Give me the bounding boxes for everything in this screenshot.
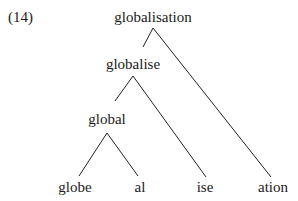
node-globalisation: globalisation — [114, 9, 192, 25]
tree-svg: (14) globalisation globalise global glob… — [0, 0, 298, 201]
edge-globalise-ise — [133, 76, 206, 177]
node-globalise: globalise — [106, 56, 160, 72]
edge-globalise-global — [115, 76, 133, 101]
node-ation: ation — [258, 179, 288, 195]
node-ise: ise — [197, 179, 214, 195]
edge-globalisation-globalise — [143, 28, 153, 47]
node-al: al — [135, 179, 146, 195]
node-globe: globe — [58, 179, 92, 195]
edge-globalisation-ation — [153, 28, 271, 177]
node-global: global — [88, 111, 126, 127]
example-number: (14) — [8, 9, 33, 26]
edge-global-globe — [79, 133, 107, 176]
morphology-tree-diagram: (14) globalisation globalise global glob… — [0, 0, 298, 201]
edge-global-al — [107, 133, 138, 176]
